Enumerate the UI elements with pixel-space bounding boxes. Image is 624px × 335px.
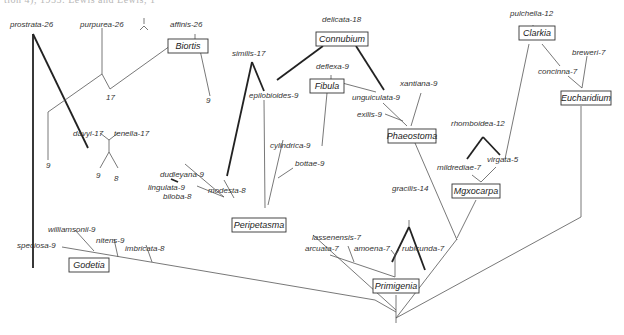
epilobioides-stem [264,100,265,208]
bottae-edge [278,168,293,178]
left-9-branch [48,74,102,112]
label-biortis-9: 9 [206,96,211,105]
label-cylindrica: cylindrica-9 [270,141,311,150]
delicata-fork-l [140,26,144,30]
section-myxocarpa: Mgxocarpa [452,184,500,198]
label-gracilis: gracilis-14 [392,184,429,193]
label-davyi: davyi-17 [73,129,104,138]
section-peripetasma-label: Peripetasma [234,220,285,230]
section-connubium-label: Connubium [319,34,366,44]
similis-epilobioides-edge [252,62,264,91]
label-mildrediae: mildrediae-7 [437,163,482,172]
rhomboidea-mildrediae-edge [467,137,483,159]
section-fibula-label: Fibula [315,81,340,91]
label-similis: similis-17 [232,49,266,58]
label-arcuata: arcuata-7 [305,244,339,253]
section-biortis: Biortis [168,39,208,53]
xantiana-edge [411,93,421,126]
section-primigenia: Primigenia [373,279,419,293]
section-fibula: Fibula [310,79,344,93]
rubicunda-fork-l [391,250,395,255]
section-connubium: Connubium [316,32,368,46]
section-primigenia-label: Primigenia [375,281,418,291]
n17-biortis-edge [110,46,170,89]
label-speciosa: speciosa-9 [17,241,56,250]
mildrediae-myxocarpa-edge [472,175,481,182]
label-rhomboidea: rhomboidea-12 [451,119,505,128]
exilis-edge [385,114,403,121]
arcuata-primigenia-edge [330,255,395,277]
rhomboidea-virgata-edge [483,137,500,155]
label-bottae: bottae-9 [295,159,325,168]
label-nitens: nitens-9 [96,236,125,245]
fibula-stem [322,93,327,146]
label-biloba: biloba-8 [163,192,192,201]
label-exilis: exilis-9 [357,110,382,119]
label-rubicunda: rubicunda-7 [402,244,445,253]
n9-fork [100,152,109,168]
label-left-9: 9 [46,161,51,170]
label-tenella-8: 8 [114,174,119,183]
section-phaeostoma-label: Phaeostoma [387,131,438,141]
concinna-eucharidium-edge [568,76,582,88]
similis-modesta-edge [227,62,252,176]
label-unguiculata: unguiculata-9 [352,93,401,102]
label-tenella: tenella-17 [114,129,150,138]
section-peripetasma: Peripetasma [232,218,286,232]
section-eucharidium-label: Eucharidium [561,93,612,103]
label-xantiana: xantiana-9 [399,79,438,88]
section-phaeostoma: Phaeostoma [387,129,438,143]
label-purpurea: purpurea-26 [79,20,124,29]
myxocarpa-stem [457,200,476,238]
label-lingulata: lingulata-9 [148,183,185,192]
godetia-trunk [62,247,375,300]
section-godetia-label: Godetia [73,260,105,270]
section-biortis-label: Biortis [175,41,201,51]
section-eucharidium: Eucharidium [561,91,612,105]
clarkia-concinna-edge [542,44,560,66]
label-affinis: affinis-26 [170,20,203,29]
label-williamsonii: williamsonii-9 [48,225,96,234]
label-pulchella: pulchella-12 [509,9,554,18]
label-n17: 17 [106,93,115,102]
label-dudleyana: dudleyana-9 [160,170,205,179]
section-clarkia-label: Clarkia [523,28,551,38]
label-delicata: delicata-18 [322,15,362,24]
label-amoena: amoena-7 [354,244,391,253]
section-myxocarpa-label: Mgxocarpa [454,186,499,196]
label-deflexa: deflexa-9 [316,62,349,71]
lingulata-edge [171,179,178,182]
label-epilobioides: epilobioides-9 [249,91,299,100]
phylogeny-diagram: BiortisConnubiumFibulaClarkiaEucharidium… [0,0,624,335]
label-tenella-9: 9 [96,171,101,180]
biortis-9-edge [200,50,210,96]
label-concinna: concinna-7 [538,67,578,76]
section-godetia: Godetia [69,258,109,272]
delicata-fork-r [144,26,148,30]
species-labels: prostrata-26purpurea-26affinis-26delicat… [9,9,606,253]
section-clarkia: Clarkia [519,26,555,40]
label-lassenensis: lassenensis-7 [312,233,361,242]
clarkia-virgata-edge [505,44,529,159]
label-breweri: breweri-7 [572,48,606,57]
n17-edge [102,74,110,89]
breweri-edge [582,56,587,88]
tree-edges [33,18,587,323]
label-virgata: virgata-5 [487,155,519,164]
virgata-myxocarpa-edge [481,167,496,182]
n8-fork [109,152,118,168]
connubium-unguiculata-edge [356,46,384,90]
label-imbricata: imbricata-8 [125,244,165,253]
godetia-root-join [375,300,396,312]
label-prostrata: prostrata-26 [9,20,54,29]
label-modesta: modesta-8 [208,186,246,195]
